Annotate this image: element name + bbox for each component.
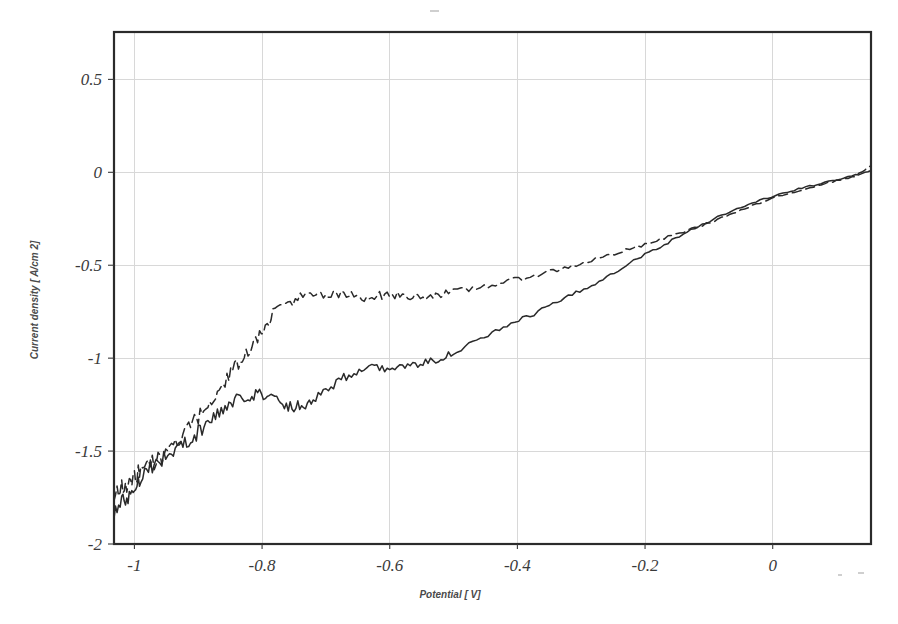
current-density-vs-potential-chart: -1-0.8-0.6-0.4-0.20 0.50-0.5-1-1.5-2 Pot… — [0, 0, 898, 624]
y-tick-label: 0.5 — [81, 70, 102, 89]
x-tick-label: -0.2 — [632, 556, 659, 575]
x-tick-label: -0.6 — [376, 556, 403, 575]
x-tick-label: -0.8 — [249, 556, 276, 575]
y-tick-label: -2 — [88, 535, 103, 554]
x-tick-label: 0 — [768, 556, 777, 575]
y-tick-label: 0 — [94, 163, 103, 182]
y-tick-label: -0.5 — [75, 256, 102, 275]
y-tick-label: -1 — [88, 349, 102, 368]
x-tick-label: -1 — [127, 556, 141, 575]
y-tick-label: -1.5 — [75, 442, 102, 461]
x-axis-title: Potential [ V] — [419, 589, 481, 600]
chart-page: -1-0.8-0.6-0.4-0.20 0.50-0.5-1-1.5-2 Pot… — [0, 0, 898, 624]
x-tick-label: -0.4 — [504, 556, 531, 575]
y-axis-title: Current density [ A/cm 2] — [29, 240, 40, 359]
